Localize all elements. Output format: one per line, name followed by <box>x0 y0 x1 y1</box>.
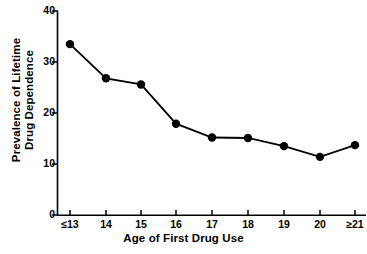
data-point <box>351 141 359 149</box>
x-axis-ticks <box>70 210 355 215</box>
data-series-markers <box>66 40 359 161</box>
data-point <box>137 80 145 88</box>
axes <box>57 11 366 216</box>
chart-container: Prevalence of Lifetime Drug Dependence 4… <box>0 0 367 254</box>
data-point <box>316 153 324 161</box>
data-point <box>66 40 74 48</box>
data-point <box>102 74 110 82</box>
data-point <box>172 120 180 128</box>
data-point <box>208 133 216 141</box>
data-point <box>244 134 252 142</box>
plot-area <box>0 0 367 254</box>
data-point <box>280 142 288 150</box>
